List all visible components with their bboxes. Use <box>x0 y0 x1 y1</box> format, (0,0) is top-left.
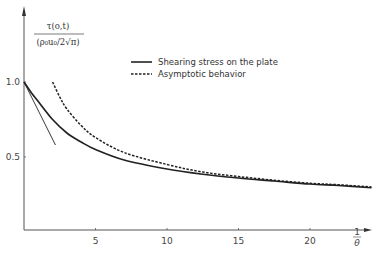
series-initial-tangent <box>24 82 55 145</box>
x-tick-label: 15 <box>233 236 244 246</box>
chart: 51015200.51.0 τ(o,t) (ρ₀u₀/2√π) Shearing… <box>0 0 379 254</box>
legend-label-shearing-stress: Shearing stress on the plate <box>158 57 278 67</box>
x-axis-arrow-icon <box>364 228 372 232</box>
legend: Shearing stress on the plate Asymptotic … <box>131 57 278 79</box>
legend-label-asymptotic: Asymptotic behavior <box>158 69 246 79</box>
x-label-denominator: θ <box>354 238 360 248</box>
series-asymptotic <box>53 82 372 187</box>
x-tick-label: 10 <box>161 236 173 246</box>
x-axis-label: 1 θ <box>353 227 361 248</box>
plot-series <box>24 82 371 188</box>
series-shearing-stress <box>24 82 371 188</box>
y-tick-label: 0.5 <box>6 152 20 162</box>
y-tick-label: 1.0 <box>6 77 21 87</box>
y-label-numerator: τ(o,t) <box>47 21 70 31</box>
x-tick-label: 20 <box>304 236 316 246</box>
x-label-numerator: 1 <box>354 227 360 237</box>
x-tick-label: 5 <box>93 236 99 246</box>
y-label-denominator: (ρ₀u₀/2√π) <box>36 37 79 47</box>
y-axis-label: τ(o,t) (ρ₀u₀/2√π) <box>34 21 84 47</box>
y-axis-arrow-icon <box>22 6 26 16</box>
